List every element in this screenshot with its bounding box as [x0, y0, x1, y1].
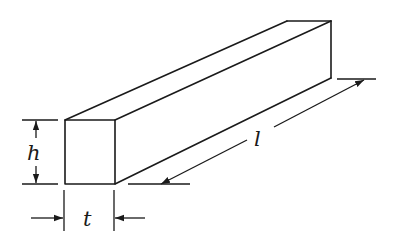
- length-arrow-front: [161, 140, 247, 184]
- height-dimension: h: [22, 120, 58, 184]
- top-left-edge: [65, 21, 287, 120]
- length-dimension: l: [128, 79, 376, 184]
- top-right-edge: [115, 21, 331, 120]
- thickness-dimension: t: [31, 190, 145, 231]
- length-label: l: [254, 127, 261, 151]
- bottom-right-edge: [115, 78, 331, 184]
- height-label: h: [27, 141, 41, 165]
- beam: [65, 21, 331, 184]
- beam-diagram: h t l: [0, 0, 396, 238]
- thickness-label: t: [83, 207, 92, 231]
- front-face: [65, 120, 115, 184]
- length-arrow-back: [274, 80, 364, 127]
